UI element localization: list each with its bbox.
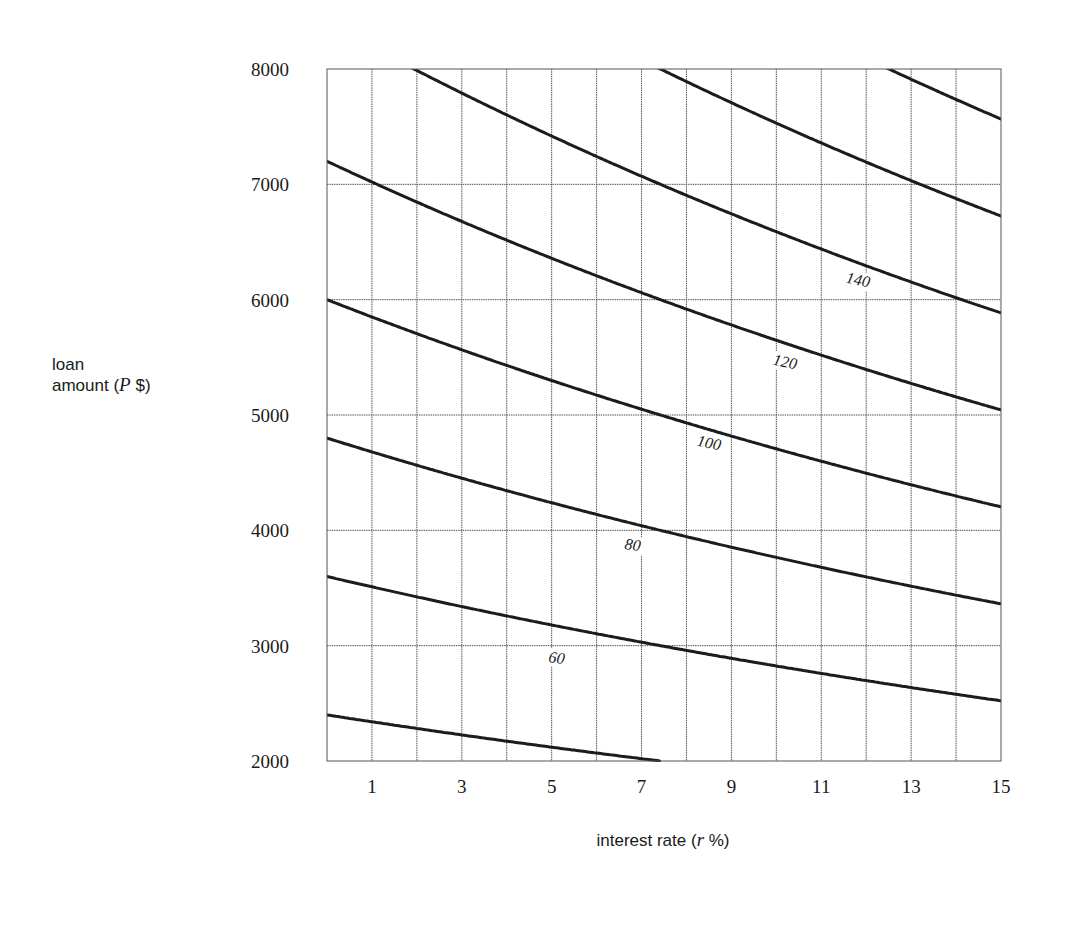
x-tick-label: 13: [902, 776, 921, 797]
y-tick-label: 4000: [251, 520, 289, 541]
loan-amount-chart: 6080100120140 20003000400050006000700080…: [0, 0, 1066, 928]
y-tick-label: 8000: [251, 59, 289, 80]
curve-labels: 6080100120140: [540, 268, 876, 669]
curve-payment-180: [327, 0, 1001, 119]
x-axis-label: interest rate (r %): [596, 829, 729, 850]
x-tick-label: 7: [637, 776, 647, 797]
curve-label-60: 60: [548, 648, 566, 667]
x-tick-label: 15: [992, 776, 1011, 797]
curve-payment-160: [327, 0, 1001, 216]
curve-payment-140: [327, 23, 1001, 313]
x-tick-label: 11: [812, 776, 830, 797]
x-tick-label: 1: [367, 776, 377, 797]
curve-label-80: 80: [624, 535, 642, 554]
curve-payment-60: [327, 577, 1001, 701]
y-axis-label-line2: amount (P $): [52, 374, 151, 395]
curve-payment-40: [327, 715, 660, 761]
y-axis-label-line1: loan: [52, 355, 84, 374]
y-tick-label: 6000: [251, 290, 289, 311]
y-axis-ticks: 2000300040005000600070008000: [251, 59, 289, 772]
curve-payment-80: [327, 438, 1001, 604]
payment-curves: [327, 0, 1001, 761]
x-tick-label: 3: [457, 776, 467, 797]
x-tick-label: 9: [727, 776, 737, 797]
curve-payment-120: [327, 161, 1001, 410]
y-tick-label: 3000: [251, 636, 289, 657]
y-tick-label: 2000: [251, 751, 289, 772]
x-tick-label: 5: [547, 776, 557, 797]
y-tick-label: 5000: [251, 405, 289, 426]
curve-payment-100: [327, 300, 1001, 507]
x-axis-ticks: 13579111315: [367, 776, 1010, 797]
y-tick-label: 7000: [251, 174, 289, 195]
